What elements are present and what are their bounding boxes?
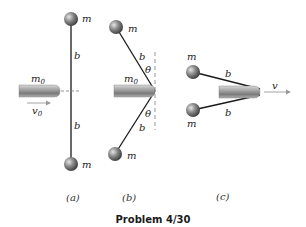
bullet [19,85,60,97]
mass-label-top: m [187,51,196,62]
panel-a: m m b b m0 v0 (a) [19,12,91,203]
rod-label-top: b [139,51,145,62]
angle-label-bottom: θ [145,108,151,119]
panel-c: m m b b v (c) [186,51,290,202]
angle-label-top: θ [145,64,151,75]
panel-caption-c: (c) [216,191,230,202]
panel-b: m m b b θ θ m0 (b) [108,20,155,203]
mass-ball-bottom [108,147,122,161]
bullet-mass-label: m0 [31,73,45,86]
mass-label-bottom: m [127,150,136,161]
velocity-label: v [272,80,278,91]
bullet [114,85,155,97]
mass-ball-top [64,12,78,26]
panel-caption-a: (a) [66,192,80,203]
rod-label-bottom: b [139,122,145,133]
velocity-label: v0 [32,105,43,118]
rod-bottom [115,91,155,154]
mass-ball-bottom [186,103,200,117]
mass-ball-top [186,65,200,79]
mass-label-bottom: m [187,118,196,129]
rod-label-bottom: b [225,107,231,118]
rod-label-bottom: b [74,120,80,131]
panel-caption-b: (b) [122,192,136,203]
rod-label-top: b [225,68,231,79]
mass-ball-top [109,20,123,34]
mass-ball-bottom [64,157,78,171]
bullet-mass-label: m0 [124,73,138,86]
mass-label-bottom: m [82,159,91,170]
problem-diagram: m m b b m0 v0 (a) m m b b θ θ m0 (b) m m… [0,0,306,227]
problem-title: Problem 4/30 [116,214,191,225]
rod-label-top: b [74,50,80,61]
bullet [219,86,260,98]
mass-label-top: m [82,13,91,24]
mass-label-top: m [128,23,137,34]
